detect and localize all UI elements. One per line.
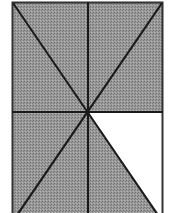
shaded-rectangle-diagram [0,0,187,213]
